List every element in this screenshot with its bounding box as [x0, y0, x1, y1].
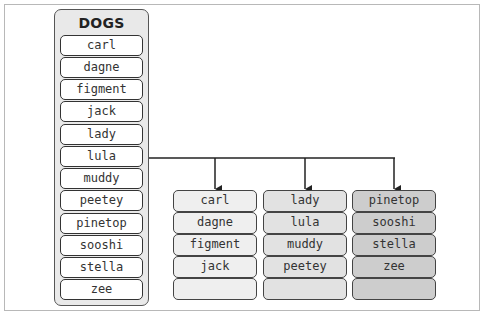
- partition-cell: stella: [352, 234, 436, 256]
- partition-cell: zee: [352, 256, 436, 278]
- partition-cell-empty: [173, 278, 257, 300]
- partition-cell: figment: [173, 234, 257, 256]
- partition-cell: lula: [263, 212, 347, 234]
- partition-cell: carl: [173, 190, 257, 212]
- partition-cell-empty: [263, 278, 347, 300]
- partition-cell-empty: [352, 278, 436, 300]
- partition-cell: sooshi: [352, 212, 436, 234]
- partition-cell: jack: [173, 256, 257, 278]
- partition-cell: lady: [263, 190, 347, 212]
- partition-cell: dagne: [173, 212, 257, 234]
- partition-cell: pinetop: [352, 190, 436, 212]
- partition-cell: peetey: [263, 256, 347, 278]
- partition-cell: muddy: [263, 234, 347, 256]
